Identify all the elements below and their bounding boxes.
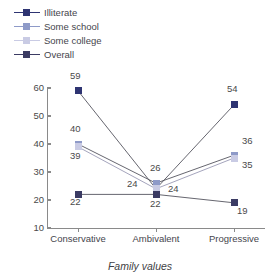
data-label: 40 <box>70 123 81 134</box>
data-point <box>231 155 238 162</box>
data-label: 24 <box>168 183 179 194</box>
data-label: 35 <box>242 159 253 170</box>
plot-area: 605040302010 ConservativeAmbivalentProgr… <box>0 0 280 280</box>
x-axis-title: Family values <box>0 260 280 272</box>
data-label: 54 <box>227 83 238 94</box>
data-label: 36 <box>242 135 253 146</box>
data-point <box>153 191 160 198</box>
data-label: 39 <box>70 150 81 161</box>
series-lines <box>0 0 280 280</box>
data-label: 22 <box>70 196 81 207</box>
data-point <box>231 101 238 108</box>
data-label: 24 <box>127 178 138 189</box>
data-label: 26 <box>150 162 161 173</box>
line-chart: Illiterate Some school Some college Over… <box>0 0 280 280</box>
series-line <box>78 91 234 189</box>
data-label: 59 <box>70 70 81 81</box>
data-label: 22 <box>150 198 161 209</box>
data-point <box>75 87 82 94</box>
data-label: 19 <box>237 205 248 216</box>
